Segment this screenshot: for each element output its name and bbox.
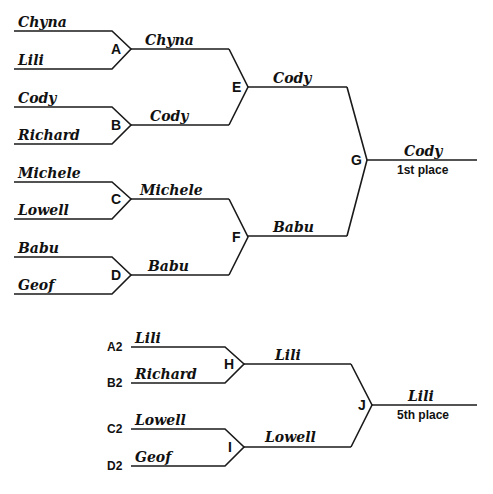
champion-name: Cody	[404, 144, 442, 158]
winner-name: Michele	[140, 183, 203, 197]
entrant-name: Cody	[18, 91, 56, 105]
winner-name: Lili	[275, 348, 301, 362]
entrant-name: Babu	[18, 241, 59, 255]
entrant-name: Richard	[135, 367, 197, 381]
entrant-name: Lowell	[18, 203, 69, 217]
winner-name: Cody	[150, 109, 188, 123]
match-label-g: G	[351, 153, 362, 167]
match-label-f: F	[232, 230, 241, 244]
entrant-name: Lili	[18, 53, 44, 67]
match-label-e: E	[232, 80, 241, 94]
winner-name: Babu	[148, 259, 189, 273]
entrant-name: Lili	[135, 331, 161, 345]
first-place-label: 1st place	[397, 164, 448, 176]
match-label-b: B	[111, 118, 121, 132]
seed-label: C2	[107, 423, 122, 435]
winner-name: Babu	[273, 220, 314, 234]
entrant-name: Chyna	[18, 15, 67, 29]
entrant-name: Geof	[18, 278, 54, 292]
entrant-name: Richard	[18, 128, 80, 142]
entrant-name: Lowell	[135, 413, 186, 427]
seed-label: A2	[107, 341, 122, 353]
entrant-name: Michele	[18, 166, 81, 180]
fifth-place-name: Lili	[408, 389, 434, 403]
match-label-i: I	[228, 440, 232, 454]
tournament-bracket: Chyna Lili Cody Richard Michele Lowell B…	[0, 0, 493, 494]
winner-name: Cody	[273, 71, 311, 85]
match-label-j: J	[358, 398, 366, 412]
fifth-place-label: 5th place	[397, 409, 449, 421]
match-label-d: D	[111, 268, 121, 282]
seed-label: D2	[107, 460, 122, 472]
winner-name: Lowell	[265, 430, 316, 444]
entrant-name: Geof	[135, 450, 171, 464]
winner-name: Chyna	[145, 33, 194, 47]
match-label-h: H	[224, 357, 234, 371]
match-label-a: A	[111, 42, 121, 56]
match-label-c: C	[111, 192, 121, 206]
seed-label: B2	[107, 377, 122, 389]
